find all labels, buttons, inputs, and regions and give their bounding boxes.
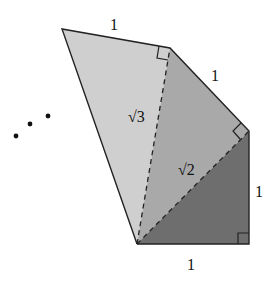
label-bottom-leg: 1 [187,256,195,273]
label-top-leg: 1 [110,16,118,33]
continuation-dot [14,134,19,139]
label-hyp-sqrt3: √3 [128,108,145,125]
continuation-dot [28,122,33,127]
label-hyp-sqrt2: √2 [178,161,195,178]
label-right-leg: 1 [255,183,263,200]
label-slant-leg: 1 [211,67,219,84]
continuation-dot [46,114,51,119]
spiral-diagram: 1 1 1 1 √2 √3 [0,0,274,283]
